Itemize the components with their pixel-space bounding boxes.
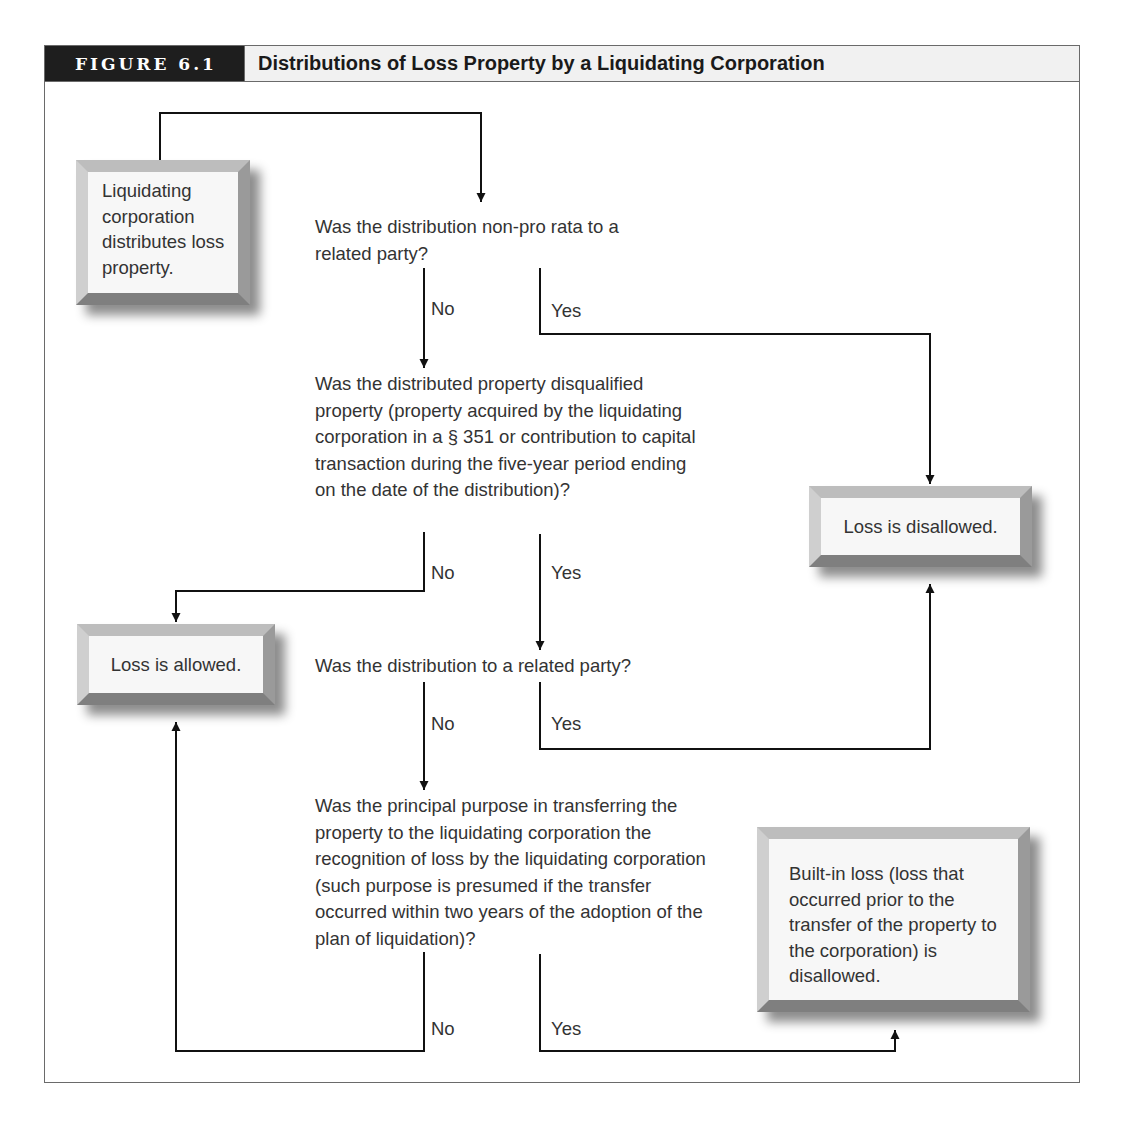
q3-yes-label: Yes	[551, 713, 581, 735]
loss-disallowed-box: Loss is disallowed.	[809, 486, 1032, 567]
q4-no-label: No	[431, 1018, 455, 1040]
q2-no-label: No	[431, 562, 455, 584]
arrow-q2-no	[176, 532, 424, 622]
q1-no-label: No	[431, 298, 455, 320]
q3-no-label: No	[431, 713, 455, 735]
loss-allowed-text: Loss is allowed.	[89, 636, 263, 693]
built-in-loss-text: Built-in loss (loss that occurred prior …	[769, 839, 1018, 1000]
start-box-text: Liquidating corporation distributes loss…	[88, 172, 238, 293]
question-related-party: Was the distribution to a related party?	[315, 653, 735, 680]
built-in-loss-box: Built-in loss (loss that occurred prior …	[757, 827, 1030, 1012]
question-disqualified-property: Was the distributed property disqualifie…	[315, 371, 705, 504]
loss-disallowed-text: Loss is disallowed.	[821, 498, 1020, 555]
question-principal-purpose: Was the principal purpose in transferrin…	[315, 793, 710, 952]
loss-allowed-box: Loss is allowed.	[77, 624, 275, 705]
q1-yes-label: Yes	[551, 300, 581, 322]
question-non-pro-rata: Was the distribution non-pro rata to a r…	[315, 214, 665, 267]
start-box: Liquidating corporation distributes loss…	[76, 160, 250, 305]
q2-yes-label: Yes	[551, 562, 581, 584]
q4-yes-label: Yes	[551, 1018, 581, 1040]
